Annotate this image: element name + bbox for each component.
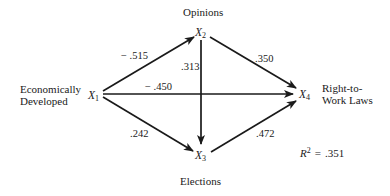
coef-x2-x4: .350 xyxy=(255,53,273,64)
node-x1: X1 xyxy=(87,89,99,103)
node-x3: X3 xyxy=(194,149,206,163)
label-x4-line1: Right-to- xyxy=(322,82,363,94)
label-x2: Opinions xyxy=(183,6,223,18)
label-x4-line2: Work Laws xyxy=(322,94,373,106)
node-x4: X4 xyxy=(298,88,310,102)
coef-x1-x3: .242 xyxy=(130,128,148,139)
node-x2: X2 xyxy=(194,26,206,40)
label-x3: Elections xyxy=(180,175,221,187)
coef-x1-x2: − .515 xyxy=(121,50,148,61)
label-x1-line2: Developed xyxy=(20,95,68,107)
edge-x3-x4 xyxy=(211,101,296,152)
label-x1-line1: Economically xyxy=(20,83,82,95)
coef-x3-x4: .472 xyxy=(256,128,274,139)
r-squared: R2=.351 xyxy=(299,146,344,159)
coef-x1-x4: − .450 xyxy=(145,81,172,92)
coef-x2-x3: .313 xyxy=(181,61,199,72)
edge-x1-x3 xyxy=(103,97,193,151)
edge-x2-x4 xyxy=(210,37,296,88)
path-diagram: X1 X2 X3 X4 Economically Developed Opini… xyxy=(0,0,390,196)
